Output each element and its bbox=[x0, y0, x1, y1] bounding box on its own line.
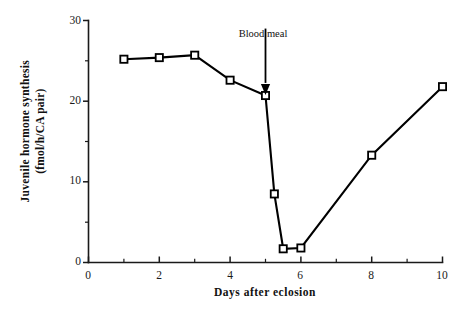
data-point-marker bbox=[368, 152, 375, 159]
blood-meal-arrow-icon bbox=[261, 29, 270, 95]
data-point-marker bbox=[271, 190, 278, 197]
data-point-marker bbox=[280, 245, 287, 252]
data-point-marker bbox=[191, 52, 198, 59]
data-point-marker bbox=[439, 83, 446, 90]
plot-area bbox=[0, 0, 463, 310]
chart-figure: Juvenile hormone synthesis (fmol/h/CA pa… bbox=[0, 0, 463, 310]
data-point-marker bbox=[156, 54, 163, 61]
data-point-marker bbox=[120, 56, 127, 63]
data-markers bbox=[120, 52, 446, 253]
data-point-marker bbox=[297, 244, 304, 251]
data-point-marker bbox=[227, 77, 234, 84]
data-series-jh-synthesis bbox=[120, 52, 446, 253]
